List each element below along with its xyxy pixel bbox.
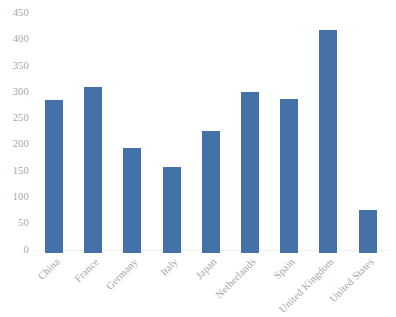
bar[interactable] [359, 210, 377, 253]
y-axis: 450400350300250200150100500 [0, 0, 34, 260]
y-axis-tick-label: 250 [0, 113, 29, 123]
y-axis-tick-label: 150 [0, 166, 29, 176]
bar-series [34, 12, 390, 254]
x-axis-label-slot: Netherlands [231, 252, 269, 316]
y-axis-tick-label: 350 [0, 61, 29, 71]
bar-slot [309, 12, 347, 254]
y-axis-tick-label: 300 [0, 87, 29, 97]
x-axis-tick-label: China [36, 256, 62, 282]
bar-slot [35, 12, 73, 254]
bar-slot [192, 12, 230, 254]
bar[interactable] [202, 131, 220, 253]
bar-slot [270, 12, 308, 254]
x-axis-label-slot: United States [349, 252, 387, 316]
bar-slot [113, 12, 151, 254]
x-axis-tick-label: Japan [194, 256, 219, 281]
bar[interactable] [319, 30, 337, 253]
y-axis-tick-label: 0 [0, 245, 29, 255]
plot-area [34, 8, 390, 253]
x-axis-tick-label: France [73, 256, 101, 284]
bar-slot [231, 12, 269, 254]
y-axis-tick-label: 50 [0, 218, 29, 228]
x-axis-label-slot: Germany [113, 252, 151, 316]
bar-slot [349, 12, 387, 254]
x-axis-tick-label: Spain [272, 256, 297, 281]
bar-chart: 450400350300250200150100500 ChinaFranceG… [0, 0, 396, 317]
y-axis-tick-label: 450 [0, 8, 29, 18]
bar[interactable] [123, 148, 141, 253]
bar-slot [153, 12, 191, 254]
bar[interactable] [45, 100, 63, 253]
bar[interactable] [241, 92, 259, 253]
x-axis-labels: ChinaFranceGermanyItalyJapanNetherlandsS… [34, 252, 390, 316]
y-axis-tick-label: 100 [0, 192, 29, 202]
bar-slot [74, 12, 112, 254]
y-axis-tick-label: 200 [0, 139, 29, 149]
y-axis-tick-label: 400 [0, 34, 29, 44]
x-axis-tick-label: Italy [158, 256, 180, 278]
bar[interactable] [280, 99, 298, 253]
x-axis-label-slot: Italy [153, 252, 191, 316]
bar[interactable] [84, 87, 102, 253]
bar[interactable] [163, 167, 181, 253]
x-axis-label-slot: China [35, 252, 73, 316]
